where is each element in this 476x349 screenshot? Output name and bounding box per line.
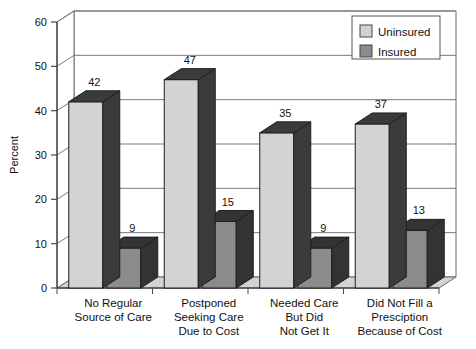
chart-canvas: 0102030405060Percent13379351547942No Reg…: [0, 0, 476, 349]
legend-swatch: [360, 25, 372, 37]
bar-value-label: 42: [88, 76, 100, 88]
bar-2-uninsured: [164, 69, 215, 288]
bar-3-uninsured: [260, 122, 311, 288]
bar-side-face: [236, 211, 253, 289]
x-category-label: Did Not Fill aPresciptionBecause of Cost: [358, 297, 443, 337]
legend-swatch: [360, 45, 372, 57]
y-axis-ticks: [51, 22, 57, 288]
bar-front-face: [69, 102, 103, 288]
y-tick-label: 50: [35, 60, 47, 72]
y-tick-label: 60: [35, 16, 47, 28]
y-tick-label: 10: [35, 238, 47, 250]
bar-side-face: [198, 69, 215, 288]
y-tick-label: 20: [35, 193, 47, 205]
chart-legend: UninsuredInsured: [352, 16, 440, 59]
y-axis-title: Percent: [8, 136, 20, 174]
bar-front-face: [355, 124, 389, 288]
x-axis-category-labels: No RegularSource of CarePostponedSeeking…: [57, 288, 443, 337]
bar-value-label: 9: [320, 222, 326, 234]
bar-value-label: 15: [222, 196, 234, 208]
x-category-label: No RegularSource of Care: [75, 297, 152, 323]
bar-value-label: 9: [129, 222, 135, 234]
bar-value-label: 37: [375, 98, 387, 110]
legend-item-uninsured[interactable]: Uninsured: [360, 25, 430, 38]
bar-side-face: [389, 113, 406, 288]
bar-1-uninsured: [69, 91, 120, 288]
x-category-label: PostponedSeeking CareDue to Cost: [174, 297, 244, 337]
bar-side-face: [427, 219, 444, 288]
y-tick-label: 30: [35, 149, 47, 161]
legend-label: Uninsured: [378, 26, 430, 38]
bar-chart-figure: 0102030405060Percent13379351547942No Reg…: [0, 0, 476, 349]
legend-item-insured[interactable]: Insured: [360, 45, 416, 58]
bar-value-label: 13: [413, 204, 425, 216]
bar-side-face: [103, 91, 120, 288]
x-category-label: Needed CareBut DidNot Get It: [270, 297, 338, 337]
y-tick-label: 40: [35, 105, 47, 117]
bar-4-uninsured: [355, 113, 406, 288]
bar-front-face: [260, 133, 294, 288]
bar-value-label: 35: [279, 107, 291, 119]
bar-front-face: [164, 80, 198, 288]
y-axis-title-label: Percent: [8, 136, 20, 174]
legend-label: Insured: [378, 46, 416, 58]
bar-side-face: [294, 122, 311, 288]
bar-value-label: 47: [184, 54, 196, 66]
y-tick-label: 0: [41, 282, 47, 294]
